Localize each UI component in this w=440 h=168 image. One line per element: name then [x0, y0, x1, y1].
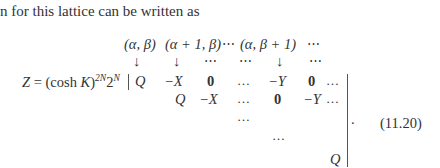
down-arrow-icon: ↓	[173, 54, 180, 69]
intro-text: n for this lattice can be written as	[0, 4, 200, 19]
down-arrow-icon: ↓	[133, 54, 140, 69]
partition-function-lhs: Z = (cosh K)2N2N	[22, 74, 120, 90]
down-arrow-icon: ↓	[276, 54, 283, 69]
matrix-r1-dots: …	[237, 74, 251, 87]
arrow-row-dots-2: ⋯	[239, 54, 253, 67]
matrix-r2-neg-x: −X	[199, 92, 218, 107]
equation-period: .	[351, 112, 355, 127]
header-col-alpha-beta: (α, β)	[124, 37, 156, 52]
header-col-alpha-beta-plus-1: (α, β + 1)	[240, 37, 296, 52]
matrix-r1-zero-2: 0	[308, 74, 315, 89]
matrix-r1-dots-2: …	[326, 74, 340, 87]
matrix-r3-dots: …	[237, 110, 251, 123]
header-dots-1: ⋯	[222, 37, 236, 50]
matrix-r5-q: Q	[330, 152, 340, 167]
arrow-row-dots-1: ⋯	[204, 54, 218, 67]
equation-number: (11.20)	[380, 116, 422, 131]
determinant-right-bar	[347, 74, 348, 167]
k-symbol: K	[81, 74, 91, 90]
matrix-r2-zero: 0	[274, 92, 281, 107]
exponent-2n: 2N	[95, 73, 106, 83]
header-dots-2: ⋯	[307, 37, 321, 50]
matrix-r1-neg-y: −Y	[268, 74, 286, 89]
matrix-r2-dots-2: …	[326, 92, 340, 105]
determinant-left-bar	[128, 74, 129, 90]
matrix-r2-q: Q	[175, 92, 185, 107]
arrow-row-dots-3: ⋯	[309, 54, 323, 67]
matrix-r1-q: Q	[135, 74, 145, 89]
exponent-n: N	[113, 73, 119, 83]
matrix-r2-neg-y: −Y	[303, 92, 321, 107]
matrix-r1-neg-x: −X	[164, 74, 183, 89]
matrix-r2-dots: …	[237, 92, 251, 105]
matrix-r1-zero: 0	[207, 74, 214, 89]
matrix-r4-dots: …	[272, 129, 286, 142]
z-symbol: Z	[22, 74, 30, 90]
header-col-alpha-plus-1-beta: (α + 1, β)	[165, 37, 221, 52]
lhs-prefix: = (cosh	[30, 74, 80, 90]
